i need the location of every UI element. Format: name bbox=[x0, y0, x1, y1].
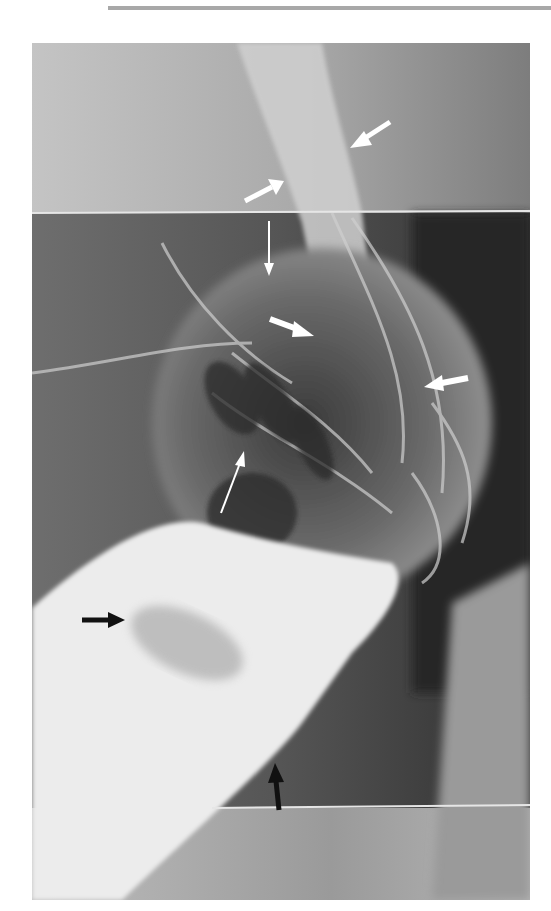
radiograph-image bbox=[32, 43, 530, 900]
radiograph-figure bbox=[32, 43, 530, 900]
top-rule bbox=[108, 6, 551, 10]
